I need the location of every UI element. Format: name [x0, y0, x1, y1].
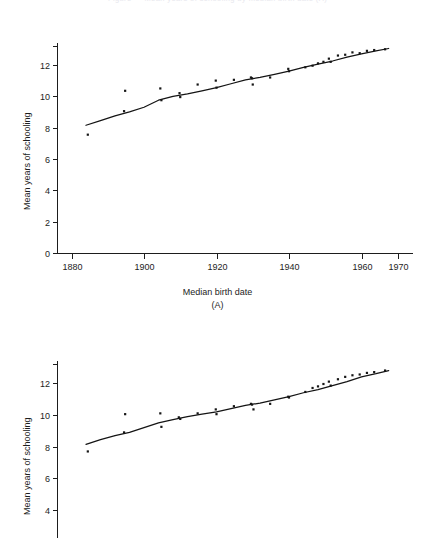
scatter-plot-a: 024681012188019001920194019601970 — [0, 0, 435, 310]
figure-page: Figure — Mean years of schooling by medi… — [0, 0, 435, 538]
data-point — [124, 90, 126, 92]
x-tick-label: 1920 — [207, 262, 227, 272]
fit-curve — [86, 371, 389, 445]
data-point — [359, 373, 361, 375]
x-tick-label: 1940 — [279, 262, 299, 272]
y-tick-label: 10 — [40, 411, 50, 421]
data-point — [233, 79, 235, 81]
x-tick-label: 1960 — [352, 262, 372, 272]
x-axis-title-a: Median birth date — [0, 287, 435, 297]
data-point — [287, 68, 289, 70]
y-tick-label: 2 — [45, 218, 50, 228]
y-tick-label: 8 — [45, 443, 50, 453]
data-point — [322, 383, 324, 385]
fit-curve — [86, 48, 389, 125]
y-axis-title-b: Mean years of schooling — [22, 417, 32, 515]
data-point — [87, 134, 89, 136]
x-tick-label: 1900 — [134, 262, 154, 272]
data-point — [373, 371, 375, 373]
data-point — [366, 372, 368, 374]
data-point — [159, 87, 161, 89]
data-point — [215, 413, 217, 415]
data-point — [178, 92, 180, 94]
y-tick-label: 12 — [40, 379, 50, 389]
data-point — [269, 403, 271, 405]
data-point — [233, 405, 235, 407]
y-tick-label: 8 — [45, 124, 50, 134]
data-point — [351, 51, 353, 53]
y-tick-label: 6 — [45, 474, 50, 484]
x-tick-label: 1880 — [62, 262, 82, 272]
data-point — [337, 378, 339, 380]
data-point — [269, 76, 271, 78]
data-point — [317, 385, 319, 387]
data-point — [351, 374, 353, 376]
data-point — [328, 381, 330, 383]
y-tick-label: 4 — [45, 506, 50, 516]
data-point — [328, 58, 330, 60]
data-point — [311, 387, 313, 389]
y-tick-label: 0 — [45, 249, 50, 259]
data-point — [252, 83, 254, 85]
y-axis-title-a: Mean years of schooling — [22, 112, 32, 210]
data-point — [197, 83, 199, 85]
data-point — [215, 408, 217, 410]
y-tick-label: 10 — [40, 92, 50, 102]
data-point — [344, 376, 346, 378]
data-point — [124, 413, 126, 415]
figure-panel-a: 024681012188019001920194019601970 Mean y… — [0, 0, 435, 310]
panel-label-a: (A) — [0, 300, 435, 310]
data-point — [123, 110, 125, 112]
figure-panel-b: 24681012 Mean years of schooling — [0, 310, 435, 538]
data-point — [366, 50, 368, 52]
data-point — [179, 96, 181, 98]
data-point — [337, 54, 339, 56]
data-point — [215, 80, 217, 82]
y-tick-label: 12 — [40, 61, 50, 71]
data-point — [252, 408, 254, 410]
data-point — [344, 54, 346, 56]
scatter-plot-b: 24681012 — [0, 310, 435, 538]
y-tick-label: 4 — [45, 186, 50, 196]
x-tick-label: 1970 — [388, 262, 408, 272]
data-point — [160, 426, 162, 428]
data-point — [87, 450, 89, 452]
y-tick-label: 6 — [45, 155, 50, 165]
data-point — [159, 412, 161, 414]
